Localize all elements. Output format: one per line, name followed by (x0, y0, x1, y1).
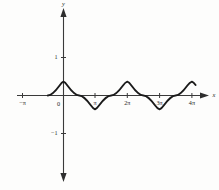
cosine-plot: −π 0 π 2π 3π 4π 1 −1 y x (0, 0, 219, 190)
figure-canvas: −π 0 π 2π 3π 4π 1 −1 y x (0, 0, 219, 190)
y-tick-label-one: 1 (54, 53, 57, 60)
x-tick-label-4pi: 4π (189, 99, 196, 106)
y-axis-down-arrow-icon (60, 173, 66, 182)
x-axis-right-arrow-icon (200, 92, 209, 98)
x-tick-label-3pi: 3π (156, 99, 163, 106)
x-tick-label-pi: π (93, 99, 97, 106)
y-axis-label: y (61, 0, 65, 7)
x-tick-label-2pi: 2π (124, 99, 131, 106)
y-axis-up-arrow-icon (60, 8, 66, 17)
y-tick-label-minus-one: −1 (51, 129, 58, 136)
x-tick-label-minus-pi: −π (19, 99, 26, 106)
x-tick-label-zero: 0 (57, 100, 60, 107)
x-axis-label: x (212, 91, 216, 98)
